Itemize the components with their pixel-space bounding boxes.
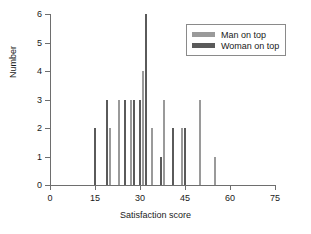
y-axis-line (50, 14, 51, 185)
chart-legend: Man on top Woman on top (186, 24, 286, 56)
y-tick-label: 6 (33, 9, 42, 19)
x-tick-mark (230, 185, 231, 190)
histogram-bar (172, 128, 175, 185)
x-tick-label: 45 (180, 193, 190, 203)
legend-swatch-woman-on-top (192, 43, 215, 48)
x-tick-label: 30 (135, 193, 145, 203)
x-axis-line (50, 185, 276, 186)
histogram-bar (109, 128, 112, 185)
histogram-bar (199, 100, 202, 186)
y-tick-mark (45, 43, 50, 44)
histogram-bar (184, 128, 187, 185)
y-tick-label: 4 (33, 66, 42, 76)
histogram-bar (160, 157, 163, 186)
histogram-bar (151, 128, 154, 185)
y-tick-label: 5 (33, 38, 42, 48)
satisfaction-score-histogram: 01530456075 0123456 Number Satisfaction … (0, 0, 311, 234)
y-tick-mark (45, 185, 50, 186)
x-tick-mark (140, 185, 141, 190)
y-tick-mark (45, 14, 50, 15)
histogram-bar (106, 100, 109, 186)
y-axis-title: Number (8, 46, 18, 78)
y-tick-mark (45, 157, 50, 158)
x-tick-label: 15 (90, 193, 100, 203)
histogram-bar (94, 128, 97, 185)
legend-item-man-on-top: Man on top (192, 29, 279, 40)
y-tick-label: 1 (33, 152, 42, 162)
histogram-bar (214, 157, 217, 186)
histogram-bar (139, 100, 142, 186)
histogram-bar (124, 100, 127, 186)
x-tick-label: 0 (47, 193, 52, 203)
legend-label-man-on-top: Man on top (221, 30, 266, 40)
x-axis-title: Satisfaction score (0, 210, 311, 220)
y-tick-mark (45, 71, 50, 72)
legend-swatch-man-on-top (192, 32, 215, 37)
x-tick-mark (275, 185, 276, 190)
legend-item-woman-on-top: Woman on top (192, 40, 279, 51)
y-tick-label: 3 (33, 95, 42, 105)
y-tick-label: 2 (33, 123, 42, 133)
x-tick-label: 60 (225, 193, 235, 203)
y-tick-mark (45, 100, 50, 101)
histogram-bar (133, 100, 136, 186)
histogram-bar (163, 100, 166, 186)
x-tick-label: 75 (270, 193, 280, 203)
x-tick-mark (50, 185, 51, 190)
histogram-bar (145, 14, 148, 185)
legend-label-woman-on-top: Woman on top (221, 41, 279, 51)
y-tick-label: 0 (33, 180, 42, 190)
histogram-bar (118, 100, 121, 186)
y-tick-mark (45, 128, 50, 129)
x-tick-mark (185, 185, 186, 190)
x-tick-mark (95, 185, 96, 190)
